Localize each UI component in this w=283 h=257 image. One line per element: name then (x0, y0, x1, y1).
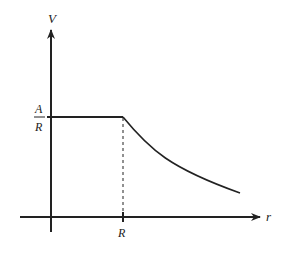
r-tick-label: R (117, 226, 126, 240)
plateau-label-denominator: R (34, 120, 43, 134)
potential-diagram: V r A R R (0, 0, 283, 257)
plateau-label-numerator: A (34, 102, 43, 116)
x-axis-label: r (266, 209, 272, 224)
y-axis-label: V (48, 11, 58, 26)
decay-curve (123, 117, 240, 193)
